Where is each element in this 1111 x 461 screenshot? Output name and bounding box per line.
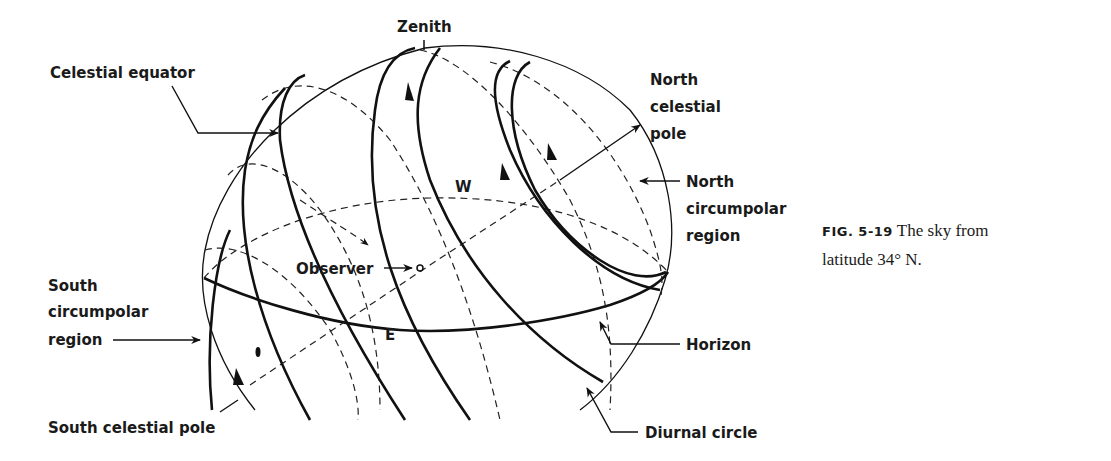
caption-line-1: The sky from xyxy=(897,221,989,240)
celestial-equator-leader xyxy=(172,86,278,133)
celestial-equator-label: Celestial equator xyxy=(50,64,195,82)
caption-line-2: latitude 34° N. xyxy=(822,250,922,269)
south-circumpolar-label-1: South xyxy=(48,277,98,295)
diurnal-circle-3 xyxy=(280,75,405,420)
north-circumpolar-label-3: region xyxy=(686,227,740,245)
arrow-on-circle xyxy=(500,163,510,180)
horizon-line xyxy=(204,272,668,331)
horizon-label: Horizon xyxy=(686,336,751,354)
arrow-on-circle xyxy=(233,368,244,385)
dashed-circle-left xyxy=(228,164,380,410)
horizon-leader xyxy=(600,322,680,344)
diurnal-leader xyxy=(587,388,638,432)
north-celestial-pole-label-2: celestial xyxy=(650,98,721,116)
dashed-arrow xyxy=(300,200,368,245)
diurnal-circle-2 xyxy=(243,88,310,420)
figure-caption: FIG. 5-19 The sky from latitude 34° N. xyxy=(822,217,1082,274)
north-celestial-pole-label-3: pole xyxy=(650,125,686,143)
figure-number: FIG. 5-19 xyxy=(822,224,893,239)
dashed-circle-right xyxy=(490,62,662,300)
south-circumpolar-label-3: region xyxy=(48,331,102,349)
north-circumpolar-label-1: North xyxy=(686,173,734,191)
celestial-equator-dashed xyxy=(262,86,500,420)
observer-point xyxy=(417,265,423,271)
west-label: W xyxy=(455,178,472,196)
diurnal-circle-label: Diurnal circle xyxy=(645,424,757,442)
zenith-label: Zenith xyxy=(397,18,452,36)
horizon-back xyxy=(204,198,668,278)
meridian-dashed xyxy=(420,50,611,410)
north-celestial-pole-label-1: North xyxy=(650,71,698,89)
diurnal-circle-1 xyxy=(210,230,230,410)
polar-axis-arrow xyxy=(560,125,640,180)
south-dot xyxy=(256,347,261,357)
east-label: E xyxy=(385,326,395,344)
arrow-on-circle xyxy=(547,143,557,160)
observer-label: Observer xyxy=(296,260,374,278)
south-circumpolar-label-2: circumpolar xyxy=(48,303,149,321)
south-celestial-pole-label: South celestial pole xyxy=(48,419,215,437)
sphere-outline xyxy=(202,46,671,410)
north-circumpolar-label-2: circumpolar xyxy=(686,200,787,218)
south-pole-leader xyxy=(220,400,238,412)
arrow-on-circle xyxy=(405,82,414,101)
diurnal-circle-6 xyxy=(495,61,660,290)
